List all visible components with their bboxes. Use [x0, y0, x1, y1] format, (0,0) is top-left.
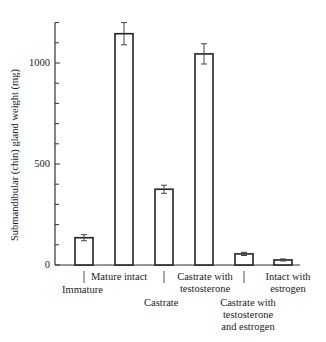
category-label-castrate-testosterone: Castrate with testosterone [173, 271, 237, 295]
label-line: Castrate with [173, 271, 237, 283]
y-tick-500: 500 [20, 158, 50, 169]
bar [75, 238, 93, 265]
bar [195, 54, 213, 265]
label-line: and estrogen [216, 321, 280, 333]
label-line: testosterone [173, 283, 237, 295]
category-label-immature: Immature [62, 284, 103, 296]
y-tick-0: 0 [20, 259, 50, 270]
category-label-mature-intact: Mature intact [91, 271, 147, 283]
category-label-intact-estrogen: Intact with estrogen [260, 271, 316, 295]
label-line: Castrate with [216, 297, 280, 309]
category-label-castrate-testosterone-estrogen: Castrate with testosterone and estrogen [216, 297, 280, 333]
label-line: Intact with [260, 271, 316, 283]
category-label-castrate: Castrate [144, 297, 178, 309]
bar-chart: Submandibular (chin) gland weight (mg) 1… [0, 0, 326, 342]
bar [115, 34, 133, 265]
y-tick-1000: 1000 [20, 57, 50, 68]
label-line: testosterone [216, 309, 280, 321]
label-line: estrogen [260, 283, 316, 295]
bar [155, 189, 173, 265]
y-axis-title: Submandibular (chin) gland weight (mg) [9, 69, 20, 241]
y-axis-label: Submandibular (chin) gland weight (mg) [4, 40, 24, 270]
